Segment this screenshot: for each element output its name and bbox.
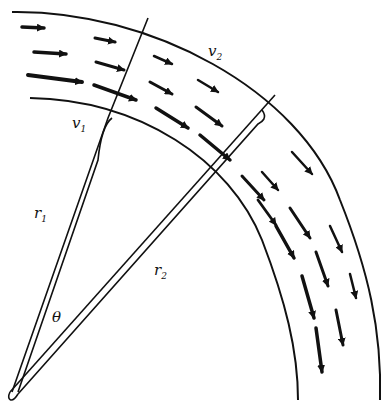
radius-r2: [10, 95, 275, 394]
outer-wall: [12, 12, 380, 400]
label-v2: v2: [208, 42, 222, 62]
velocity-arrows: [22, 27, 356, 372]
label-r1: r1: [34, 204, 47, 224]
label-r2: r2: [154, 261, 167, 281]
apex: [9, 392, 18, 400]
diagram-canvas: v1 v2 r1 r2 θ: [0, 0, 384, 408]
label-v1: v1: [72, 114, 86, 134]
label-theta: θ: [52, 308, 61, 326]
inner-wall: [30, 98, 298, 400]
